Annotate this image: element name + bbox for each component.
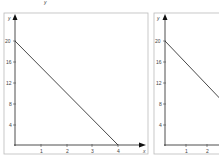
x-tick-label: 2 (206, 148, 209, 154)
y-ticks (163, 41, 166, 125)
panel-frame (4, 13, 148, 154)
y-ticks (13, 41, 16, 125)
x-ticks (186, 144, 207, 147)
x-ticks (41, 144, 118, 147)
top-axis-label: y (43, 0, 47, 5)
y-tick-label: 20 (155, 38, 161, 44)
y-axis-arrow-icon (163, 14, 168, 20)
chart-panel-left: y x 20 16 12 8 4 1 2 3 4 (4, 13, 148, 154)
y-tick-label: 4 (159, 122, 162, 128)
x-tick-label: 3 (91, 148, 94, 154)
x-axis-arrow-icon (139, 143, 146, 148)
panel-frame (154, 13, 219, 154)
y-tick-label: 4 (9, 122, 12, 128)
y-tick-label: 8 (159, 101, 162, 107)
data-line (15, 41, 118, 145)
y-axis-arrow-icon (13, 14, 18, 20)
x-tick-label: 2 (66, 148, 69, 154)
y-tick-label: 12 (156, 80, 162, 86)
x-tick-label: 1 (40, 148, 43, 154)
x-tick-label: 1 (185, 148, 188, 154)
y-tick-label: 16 (6, 59, 12, 65)
y-axis-label: y (156, 15, 160, 21)
chart-panel-right: y 20 16 12 8 4 1 2 (154, 13, 219, 154)
y-tick-label: 8 (9, 101, 12, 107)
x-axis-label: x (142, 148, 146, 154)
y-tick-label: 20 (5, 38, 11, 44)
figure: y y x 20 16 12 8 4 1 2 3 4 y (0, 0, 219, 157)
x-tick-label: 4 (117, 148, 120, 154)
data-line (165, 41, 219, 130)
y-tick-label: 16 (156, 59, 162, 65)
y-tick-label: 12 (6, 80, 12, 86)
y-axis-label: y (7, 15, 11, 21)
